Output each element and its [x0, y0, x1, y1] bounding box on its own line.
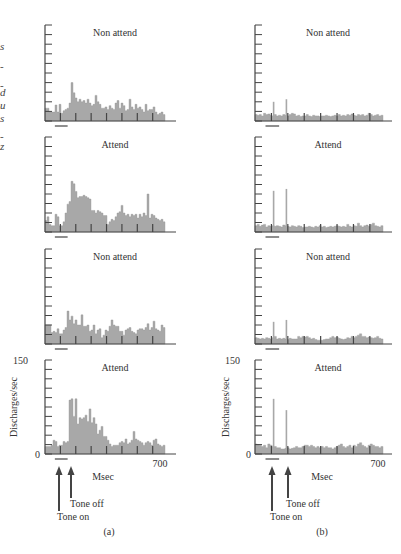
panel-title: Non attend [93, 251, 137, 262]
spike-bar [273, 102, 275, 121]
spike-bar [286, 320, 288, 344]
tone-off-arrow-a [68, 466, 75, 498]
y-axis-title-a: Discharges/sec [8, 377, 19, 437]
spike-bar [286, 410, 288, 454]
x-axis-title-b: Msec [311, 471, 333, 482]
histogram-panel: Attend [45, 360, 176, 459]
y-min-label-a: 0 [35, 449, 40, 460]
x-max-label-a: 700 [153, 458, 168, 469]
histogram-panel: Non attend [255, 249, 392, 349]
histogram-panel: Attend [255, 360, 392, 459]
histogram-panel: Non attend [255, 25, 392, 126]
spike-bar [286, 99, 288, 121]
histogram-bars [45, 399, 165, 454]
panel-title: Attend [101, 139, 128, 150]
tone-off-label-b: Tone off [286, 498, 320, 509]
spike-bar [273, 399, 275, 454]
histogram-panel: Attend [45, 137, 176, 237]
histogram-bars [45, 181, 165, 232]
y-max-label-a: 150 [13, 355, 28, 366]
spike-bar [286, 189, 288, 232]
histogram-panel: Non attend [45, 249, 176, 349]
tone-on-label-b: Tone on [270, 511, 302, 522]
y-min-label-b: 0 [246, 449, 251, 460]
panel-title: Attend [101, 362, 128, 373]
histogram-bars [45, 311, 165, 344]
tone-off-arrow-b [285, 466, 292, 498]
histogram-panel: Attend [255, 137, 392, 237]
tone-off-label-a: Tone off [70, 498, 104, 509]
x-axis-title-a: Msec [92, 471, 114, 482]
tone-on-label-a: Tone on [57, 511, 89, 522]
panel-title: Non attend [93, 27, 137, 38]
spike-bar [273, 191, 275, 232]
y-axis-title-b: Discharges/sec [220, 377, 231, 437]
histogram-panel: Non attend [45, 25, 176, 126]
panel-label-b: (b) [316, 526, 328, 538]
panel-label-a: (a) [103, 526, 114, 538]
spike-bar [273, 322, 275, 344]
histogram-bars [45, 83, 165, 121]
panel-title: Non attend [306, 27, 350, 38]
tone-on-arrow-b [269, 466, 276, 511]
histogram-figure: Non attendAttendNon attendAttendNon atte… [0, 0, 401, 554]
panel-grid: Non attendAttendNon attendAttendNon atte… [45, 25, 392, 459]
y-max-label-b: 150 [225, 355, 240, 366]
tone-on-arrow-a [56, 466, 63, 511]
panel-title: Non attend [306, 251, 350, 262]
x-max-label-b: 700 [371, 458, 386, 469]
panel-title: Attend [314, 139, 341, 150]
panel-title: Attend [314, 362, 341, 373]
